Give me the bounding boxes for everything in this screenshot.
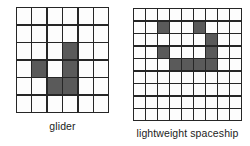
life-cell-empty	[17, 96, 31, 112]
life-cell-filled	[63, 61, 77, 77]
life-cell-empty	[182, 22, 193, 33]
life-cell-empty	[146, 84, 157, 95]
life-cell-empty	[134, 97, 145, 108]
life-cell-empty	[94, 8, 108, 24]
life-cell-filled	[32, 61, 46, 77]
life-cell-empty	[17, 78, 31, 94]
life-cell-filled	[63, 78, 77, 94]
life-cell-empty	[134, 22, 145, 33]
life-cell-empty	[230, 97, 241, 108]
life-cell-empty	[182, 34, 193, 45]
life-cell-empty	[194, 9, 205, 20]
life-cell-empty	[94, 26, 108, 42]
life-cell-empty	[48, 96, 62, 112]
life-cell-filled	[194, 59, 205, 70]
glider-caption: glider	[49, 120, 75, 132]
life-cell-empty	[63, 8, 77, 24]
life-cell-empty	[158, 97, 169, 108]
life-cell-empty	[230, 34, 241, 45]
life-cell-empty	[94, 61, 108, 77]
life-cell-empty	[79, 96, 93, 112]
life-cell-empty	[94, 96, 108, 112]
life-cell-empty	[79, 78, 93, 94]
life-cell-empty	[146, 47, 157, 58]
life-cell-empty	[206, 72, 217, 83]
life-cell-empty	[134, 34, 145, 45]
life-cell-empty	[79, 61, 93, 77]
life-cell-empty	[182, 72, 193, 83]
life-cell-empty	[79, 26, 93, 42]
life-cell-empty	[230, 22, 241, 33]
life-cell-empty	[194, 84, 205, 95]
life-cell-empty	[206, 84, 217, 95]
life-cell-filled	[206, 59, 217, 70]
life-cell-empty	[158, 72, 169, 83]
life-cell-empty	[194, 47, 205, 58]
life-cell-empty	[218, 22, 229, 33]
life-cell-empty	[170, 84, 181, 95]
life-cell-empty	[63, 26, 77, 42]
life-cell-empty	[170, 22, 181, 33]
life-cell-empty	[170, 72, 181, 83]
life-cell-empty	[170, 109, 181, 120]
life-cell-filled	[206, 34, 217, 45]
life-cell-empty	[134, 84, 145, 95]
life-cell-empty	[170, 47, 181, 58]
life-cell-empty	[48, 61, 62, 77]
lightweight-spaceship-panel: lightweight spaceship	[125, 0, 250, 139]
life-cell-empty	[218, 84, 229, 95]
life-cell-empty	[79, 8, 93, 24]
life-cell-empty	[194, 97, 205, 108]
life-cell-empty	[206, 97, 217, 108]
life-cell-empty	[194, 72, 205, 83]
life-cell-empty	[218, 47, 229, 58]
life-cell-empty	[230, 72, 241, 83]
life-cell-empty	[134, 59, 145, 70]
life-cell-empty	[218, 34, 229, 45]
life-cell-empty	[32, 8, 46, 24]
life-cell-empty	[94, 43, 108, 59]
life-patterns-figure: glider lightweight spaceship	[0, 0, 250, 146]
life-cell-empty	[146, 109, 157, 120]
life-cell-empty	[182, 47, 193, 58]
life-cell-filled	[63, 43, 77, 59]
life-cell-empty	[218, 59, 229, 70]
life-cell-empty	[218, 109, 229, 120]
life-cell-empty	[218, 72, 229, 83]
life-cell-empty	[134, 9, 145, 20]
lightweight-spaceship-grid	[133, 8, 242, 121]
life-cell-empty	[146, 72, 157, 83]
life-cell-empty	[48, 8, 62, 24]
life-cell-empty	[134, 72, 145, 83]
life-cell-empty	[146, 9, 157, 20]
life-cell-empty	[63, 96, 77, 112]
life-cell-empty	[32, 43, 46, 59]
life-cell-filled	[194, 22, 205, 33]
life-cell-empty	[230, 109, 241, 120]
life-cell-empty	[182, 97, 193, 108]
life-cell-empty	[170, 34, 181, 45]
life-cell-empty	[182, 84, 193, 95]
life-cell-filled	[206, 47, 217, 58]
life-cell-empty	[32, 96, 46, 112]
glider-panel: glider	[0, 0, 125, 132]
life-cell-empty	[146, 34, 157, 45]
life-cell-empty	[158, 84, 169, 95]
life-cell-filled	[158, 22, 169, 33]
life-cell-empty	[17, 43, 31, 59]
life-cell-empty	[194, 34, 205, 45]
life-cell-empty	[218, 97, 229, 108]
life-cell-empty	[206, 109, 217, 120]
life-cell-empty	[206, 22, 217, 33]
life-cell-empty	[158, 109, 169, 120]
life-cell-empty	[158, 59, 169, 70]
life-cell-empty	[32, 26, 46, 42]
life-cell-empty	[206, 9, 217, 20]
life-cell-filled	[182, 59, 193, 70]
life-cell-empty	[230, 47, 241, 58]
life-cell-empty	[230, 9, 241, 20]
life-cell-empty	[134, 109, 145, 120]
life-cell-empty	[170, 9, 181, 20]
life-cell-empty	[134, 47, 145, 58]
life-cell-empty	[146, 22, 157, 33]
